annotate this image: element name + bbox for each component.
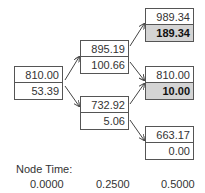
tree-node-down-down: 663.17 0.00 [145, 126, 194, 160]
edge-arrow [65, 86, 79, 106]
time-step-1: 0.2500 [96, 178, 130, 190]
time-step-2: 0.5000 [161, 178, 195, 190]
node-price: 810.00 [15, 67, 62, 83]
edge-arrow [65, 57, 79, 80]
node-value-highlighted: 189.34 [146, 25, 193, 41]
edge-arrow [130, 62, 144, 80]
tree-node-up-up: 989.34 189.34 [145, 8, 194, 42]
tree-node-up: 895.19 100.66 [80, 40, 129, 74]
node-price: 732.92 [81, 97, 128, 113]
node-price: 810.00 [146, 67, 193, 83]
node-value: 0.00 [146, 143, 193, 159]
node-value: 100.66 [81, 57, 128, 73]
node-time-label: Node Time: [16, 163, 72, 175]
node-value: 53.39 [15, 83, 62, 99]
node-price: 989.34 [146, 9, 193, 25]
edge-arrow [130, 84, 144, 104]
tree-node-down: 732.92 5.06 [80, 96, 129, 130]
node-price: 895.19 [81, 41, 128, 57]
node-value: 5.06 [81, 113, 128, 129]
node-value-highlighted: 10.00 [146, 83, 193, 99]
tree-node-up-down: 810.00 10.00 [145, 66, 194, 100]
edge-arrow [130, 120, 144, 140]
node-price: 663.17 [146, 127, 193, 143]
tree-node-root: 810.00 53.39 [14, 66, 63, 100]
edge-arrow [130, 24, 144, 46]
time-step-0: 0.0000 [30, 178, 64, 190]
